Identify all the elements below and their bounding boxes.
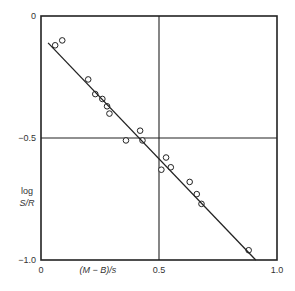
x-axis-label: (M − B)/s bbox=[80, 265, 117, 275]
data-point bbox=[123, 138, 129, 144]
y-tick-labels: 0 −0.5 −1.0 bbox=[18, 11, 36, 265]
y-axis-label-line1: log bbox=[21, 186, 33, 196]
data-point bbox=[187, 179, 193, 185]
y-axis-label-line2: S/R bbox=[19, 198, 35, 208]
x-tick-labels: 0 0.5 1.0 bbox=[38, 265, 283, 275]
x-tick-1.0: 1.0 bbox=[271, 265, 284, 275]
regression-line bbox=[48, 43, 256, 260]
data-point bbox=[137, 128, 143, 134]
fit-line bbox=[48, 43, 256, 260]
x-tick-0: 0 bbox=[38, 265, 43, 275]
chart: 0 −0.5 −1.0 0 0.5 1.0 (M − B)/s log S/R bbox=[0, 0, 295, 291]
data-point bbox=[107, 111, 113, 117]
data-points bbox=[52, 38, 251, 253]
y-tick-minus-0.5: −0.5 bbox=[18, 133, 36, 143]
data-point bbox=[59, 38, 65, 44]
plot-frame bbox=[41, 16, 277, 260]
x-tick-0.5: 0.5 bbox=[153, 265, 166, 275]
data-point bbox=[163, 155, 169, 161]
data-point bbox=[52, 42, 58, 48]
y-tick-minus-1.0: −1.0 bbox=[18, 255, 36, 265]
data-point bbox=[85, 77, 91, 83]
data-point bbox=[159, 167, 165, 173]
y-tick-0: 0 bbox=[31, 11, 36, 21]
